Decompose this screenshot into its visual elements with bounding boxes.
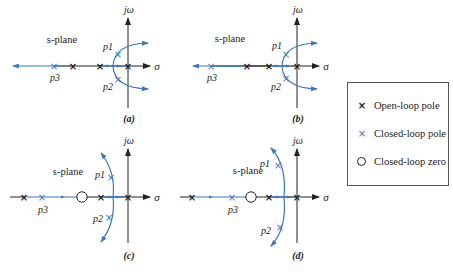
locus-arrow-right	[116, 196, 120, 199]
legend: × Open-loop pole × Closed-loop pole Clos…	[347, 82, 449, 186]
legend-item-closed-loop-pole: × Closed-loop pole	[356, 128, 446, 139]
open-loop-pole: ×	[124, 192, 132, 203]
p2-label: p2	[102, 81, 113, 92]
closed-loop-pole-p3: ×	[50, 61, 58, 72]
legend-label: Closed-loop pole	[374, 128, 446, 139]
closed-loop-pole-p3: ×	[38, 192, 46, 203]
p1-label: p1	[94, 169, 105, 180]
closed-loop-pole-p2: ×	[105, 212, 113, 223]
p2-label: p2	[260, 225, 271, 236]
closed-loop-pole-p1: ×	[282, 49, 290, 60]
legend-label: Open-loop pole	[374, 100, 440, 111]
p3-label: p3	[227, 204, 238, 215]
open-loop-pole: ×	[188, 192, 196, 203]
open-loop-pole: ×	[293, 61, 301, 72]
closed-loop-pole-p3: ×	[207, 61, 215, 72]
imag-axis-label: jω	[122, 4, 134, 15]
p2-label: p2	[92, 213, 103, 224]
panel-b: × × × × × × jω σ s-plane p1 p2 p3 (b)	[193, 4, 329, 125]
open-loop-pole: ×	[97, 192, 105, 203]
locus-arrow-right	[286, 65, 290, 68]
closed-loop-zero-icon	[357, 157, 366, 166]
panel-a: × × × × × × jω σ s-plane p1 p2 p3 (a)	[13, 4, 160, 125]
legend-item-open-loop-pole: × Open-loop pole	[356, 100, 440, 111]
locus-arrow-left	[106, 196, 110, 199]
open-loop-pole: ×	[124, 61, 132, 72]
closed-loop-pole-p2: ×	[114, 74, 122, 85]
locus-arrow-right	[287, 196, 291, 199]
open-loop-pole: ×	[243, 61, 251, 72]
p2-label: p2	[270, 81, 281, 92]
real-axis-label: σ	[323, 191, 329, 203]
open-loop-pole-icon: ×	[356, 100, 368, 111]
open-loop-pole: ×	[96, 61, 104, 72]
p3-label: p3	[37, 204, 48, 215]
real-axis-label: σ	[323, 60, 329, 72]
open-loop-pole: ×	[69, 61, 77, 72]
panel-caption: (b)	[292, 113, 304, 125]
closed-loop-pole-icon: ×	[356, 128, 368, 139]
closed-loop-pole-p2: ×	[282, 73, 290, 84]
p1-label: p1	[259, 158, 270, 169]
real-axis-label: σ	[154, 191, 160, 203]
p3-label: p3	[49, 72, 60, 83]
p1-label: p1	[102, 41, 113, 52]
locus-arrow-left	[273, 65, 277, 68]
locus-upper-branch	[271, 148, 284, 197]
open-loop-pole: ×	[265, 192, 273, 203]
locus-arrow	[209, 196, 213, 199]
real-axis-label: σ	[154, 60, 160, 72]
open-loop-pole: ×	[293, 192, 301, 203]
p3-label: p3	[206, 72, 217, 83]
panel-caption: (d)	[292, 250, 304, 262]
closed-loop-pole-p1: ×	[274, 160, 282, 171]
s-plane-label: s-plane	[53, 166, 84, 177]
locus-arrow-left	[274, 196, 278, 199]
locus-arrow	[61, 196, 65, 199]
panel-c: × × × × × × jω σ s-plane p1 p2 p3 (c)	[10, 135, 160, 262]
legend-item-closed-loop-zero: Closed-loop zero	[356, 156, 446, 167]
imag-axis-label: jω	[291, 135, 303, 146]
closed-loop-zero	[77, 192, 87, 202]
s-plane-label: s-plane	[233, 165, 264, 176]
legend-label: Closed-loop zero	[374, 156, 446, 167]
closed-loop-pole-p3: ×	[228, 192, 236, 203]
panel-caption: (a)	[123, 113, 135, 125]
closed-loop-pole-p2: ×	[276, 222, 284, 233]
panel-d: × × × × × × jω σ s-plane p1 p2 p3 (d)	[180, 135, 329, 262]
s-plane-label: s-plane	[47, 34, 78, 45]
closed-loop-pole-p1: ×	[107, 172, 115, 183]
panel-caption: (c)	[123, 250, 134, 262]
imag-axis-label: jω	[122, 135, 134, 146]
imag-axis-label: jω	[291, 4, 303, 15]
open-loop-pole: ×	[20, 192, 28, 203]
open-loop-pole: ×	[265, 61, 273, 72]
closed-loop-zero	[246, 192, 256, 202]
p1-label: p1	[271, 40, 282, 51]
s-plane-label: s-plane	[215, 33, 246, 44]
closed-loop-pole-p1: ×	[114, 49, 122, 60]
locus-arrow-right	[117, 65, 121, 68]
locus-arrow-left	[104, 65, 108, 68]
